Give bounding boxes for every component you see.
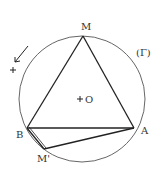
segment-AMprime	[44, 128, 134, 149]
segment-BMprime	[27, 128, 44, 149]
center-marker-icon	[77, 96, 83, 102]
orientation-arrow-icon	[15, 46, 28, 62]
label-A: A	[140, 125, 149, 136]
orientation-plus-icon	[10, 67, 16, 73]
label-gamma: (Γ)	[136, 47, 151, 58]
segment-MB	[27, 36, 83, 128]
segment-BMprime-double	[29, 127, 46, 148]
label-M: M	[81, 21, 91, 32]
label-O: O	[85, 94, 93, 105]
segment-MA	[83, 36, 134, 128]
label-M-prime: M'	[37, 153, 50, 164]
geometry-figure: M A B M' O (Γ)	[0, 0, 163, 178]
label-B: B	[16, 129, 23, 140]
